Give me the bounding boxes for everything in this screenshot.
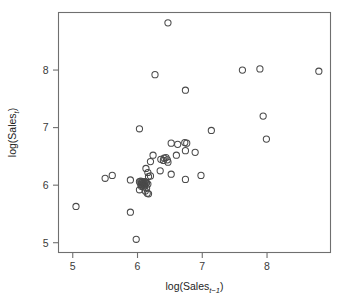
data-point (127, 177, 133, 183)
data-point (239, 67, 245, 73)
data-point (168, 171, 174, 177)
plot-frame (59, 13, 331, 253)
x-tick-label: 6 (135, 260, 141, 272)
data-point (208, 127, 214, 133)
data-point (147, 158, 153, 164)
y-tick-label: 5 (43, 237, 49, 249)
data-point (316, 68, 322, 74)
data-point (102, 175, 108, 181)
data-point (136, 126, 142, 132)
plot-canvas: 5678 5678 log(Salest−1) log(Salest) (0, 0, 346, 305)
data-point (173, 152, 179, 158)
data-point (257, 66, 263, 72)
x-tick-label: 7 (199, 260, 205, 272)
y-tick-label: 8 (43, 64, 49, 76)
x-axis-ticks: 5678 (70, 253, 270, 273)
x-tick-label: 8 (264, 260, 270, 272)
data-points-layer (73, 20, 322, 243)
data-point (133, 236, 139, 242)
y-axis-ticks: 5678 (43, 64, 59, 249)
y-axis-title-text: log(Salest) (6, 108, 21, 157)
data-point (192, 149, 198, 155)
y-tick-label: 6 (43, 179, 49, 191)
data-point (168, 140, 174, 146)
data-point (182, 87, 188, 93)
data-point (260, 113, 266, 119)
y-axis-title: log(Salest) (6, 108, 21, 157)
x-tick-label: 5 (70, 260, 76, 272)
scatter-plot-figure: 5678 5678 log(Salest−1) log(Salest) (0, 0, 346, 305)
data-point (263, 136, 269, 142)
x-axis-title: log(Salest−1) (165, 280, 223, 295)
data-point (152, 72, 158, 78)
data-point (165, 20, 171, 26)
y-tick-label: 7 (43, 121, 49, 133)
data-point (127, 209, 133, 215)
data-point (175, 141, 181, 147)
x-axis-title-text: log(Salest−1) (165, 280, 223, 295)
data-point (182, 176, 188, 182)
data-point (198, 172, 204, 178)
data-point (157, 168, 163, 174)
data-point (182, 148, 188, 154)
data-point (73, 203, 79, 209)
plot-border (59, 13, 331, 253)
data-point (109, 172, 115, 178)
data-point (150, 152, 156, 158)
